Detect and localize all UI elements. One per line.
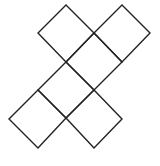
square-top-right [94,5,150,62]
square-center-upper [66,33,122,90]
cube-net-diagram [0,0,160,166]
square-top-left [38,5,94,62]
square-bottom-left [9,90,66,148]
square-bottom-right [66,90,122,148]
square-center-lower [38,62,94,118]
